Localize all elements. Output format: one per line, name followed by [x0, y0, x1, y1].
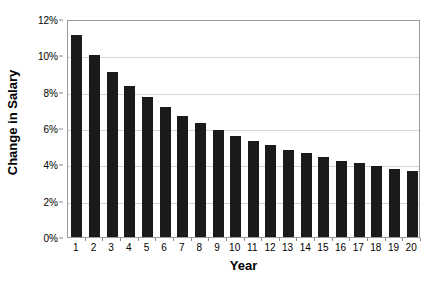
bar — [318, 157, 329, 237]
bar — [230, 136, 241, 237]
x-axis-tick-label: 12 — [264, 242, 275, 253]
bar — [265, 145, 276, 237]
x-axis-tick-label: 11 — [247, 242, 257, 253]
bar — [389, 169, 400, 237]
y-axis-tick-label: 0% — [44, 233, 58, 244]
bar — [107, 72, 118, 237]
gridline — [68, 130, 419, 131]
x-axis-tick-label: 17 — [353, 242, 364, 253]
bar — [371, 166, 382, 237]
y-axis-tick-mark — [59, 129, 63, 130]
bar — [248, 141, 259, 237]
x-axis-tick-label: 9 — [214, 242, 220, 253]
bar — [89, 55, 100, 237]
x-axis-tick-label: 20 — [406, 242, 417, 253]
x-axis-tick-label: 6 — [161, 242, 167, 253]
gridline — [68, 94, 419, 95]
gridline — [68, 166, 419, 167]
y-axis-tick-labels: 0%2%4%6%8%10%12% — [26, 20, 63, 238]
x-axis-tick-label: 18 — [370, 242, 381, 253]
bar — [407, 171, 418, 237]
y-axis-tick-mark — [59, 238, 63, 239]
bar — [354, 163, 365, 237]
y-axis-tick-mark — [59, 56, 63, 57]
bar — [177, 116, 188, 237]
bar — [160, 107, 171, 237]
y-axis-title-label: Change in Salary — [6, 70, 21, 175]
y-axis-tick-mark — [59, 20, 63, 21]
x-axis-tick-label: 2 — [91, 242, 97, 253]
y-axis-tick-mark — [59, 92, 63, 93]
x-axis-tick-label: 15 — [317, 242, 328, 253]
y-axis-tick-label: 10% — [38, 51, 58, 62]
x-axis-tick-label: 3 — [108, 242, 114, 253]
bar — [71, 35, 82, 237]
y-axis-tick-mark — [59, 165, 63, 166]
x-axis-tick-label: 4 — [126, 242, 132, 253]
y-axis-tick-label: 12% — [38, 15, 58, 26]
x-axis-tick-label: 14 — [300, 242, 311, 253]
x-axis-title: Year — [67, 258, 420, 273]
bar — [336, 161, 347, 237]
x-axis-tick-label: 16 — [335, 242, 346, 253]
bar — [142, 97, 153, 237]
y-axis-tick-label: 2% — [44, 196, 58, 207]
bar — [195, 123, 206, 237]
y-axis-tick-label: 8% — [44, 87, 58, 98]
x-axis-tick-label: 13 — [282, 242, 293, 253]
bar — [283, 150, 294, 237]
y-axis-tick-mark — [59, 201, 63, 202]
x-axis-tick-labels: 1234567891011121314151617181920 — [67, 240, 420, 256]
y-axis-tick-label: 4% — [44, 160, 58, 171]
gridline — [68, 57, 419, 58]
bar — [301, 153, 312, 237]
x-axis-tick-label: 7 — [179, 242, 185, 253]
x-axis-tick-label: 5 — [144, 242, 150, 253]
x-axis-tick-mark — [420, 238, 421, 241]
x-axis-tick-label: 19 — [388, 242, 399, 253]
bar — [213, 130, 224, 237]
x-axis-tick-label: 8 — [197, 242, 203, 253]
y-axis-tick-label: 6% — [44, 124, 58, 135]
bar — [124, 86, 135, 237]
x-axis-tick-label: 1 — [73, 242, 79, 253]
bar-chart: Change in Salary 0%2%4%6%8%10%12% 123456… — [0, 0, 437, 291]
plot-area — [67, 20, 420, 238]
gridline — [68, 203, 419, 204]
x-axis-tick-label: 10 — [229, 242, 240, 253]
y-axis-title: Change in Salary — [0, 0, 26, 245]
